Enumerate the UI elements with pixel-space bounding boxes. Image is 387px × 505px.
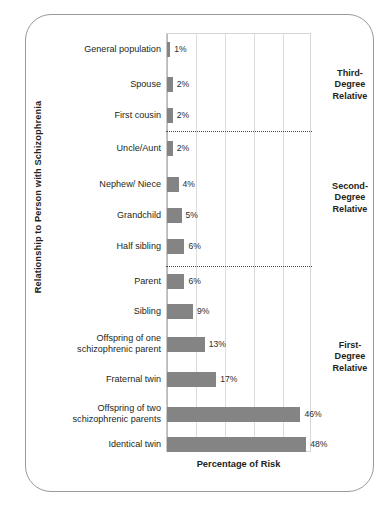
category-label: Offspring of oneschizophrenic parent <box>15 333 161 354</box>
separator-third-second <box>166 131 312 132</box>
bar-value-label: 2% <box>177 108 189 123</box>
bar-value-label: 13% <box>209 337 226 352</box>
category-label: Half sibling <box>15 241 161 252</box>
gridline-40 <box>283 34 284 451</box>
group-label-line-2: Degree <box>317 351 383 362</box>
gridline-30 <box>254 34 255 451</box>
category-label: Identical twin <box>15 439 161 450</box>
bar <box>167 108 173 123</box>
bar-value-label: 46% <box>304 407 321 422</box>
group-label-third-degree: Third- Degree Relative <box>317 68 383 102</box>
group-label-line-3: Relative <box>317 363 383 374</box>
category-label: Uncle/Aunt <box>15 143 161 154</box>
bar <box>167 337 205 352</box>
bar <box>167 42 170 57</box>
bar <box>167 437 306 452</box>
bar <box>167 208 182 223</box>
separator-second-first <box>166 266 312 267</box>
x-axis-title: Percentage of Risk <box>166 459 311 469</box>
schizophrenia-risk-bar-chart: Relationship to Person with Schizophreni… <box>0 0 387 505</box>
bar <box>167 304 193 319</box>
group-label-line-3: Relative <box>317 91 383 102</box>
bar-value-label: 6% <box>188 274 200 289</box>
category-label: First cousin <box>15 110 161 121</box>
category-label: Fraternal twin <box>15 374 161 385</box>
bar-value-label: 9% <box>197 304 209 319</box>
category-label: Nephew/ Niece <box>15 179 161 190</box>
bar-value-label: 2% <box>177 77 189 92</box>
bar-value-label: 17% <box>220 372 237 387</box>
bar-value-label: 2% <box>177 141 189 156</box>
bar <box>167 372 216 387</box>
group-label-line-1: First- <box>317 340 383 351</box>
category-label: Sibling <box>15 306 161 317</box>
group-label-line-2: Degree <box>317 192 383 203</box>
bar-value-label: 6% <box>188 239 200 254</box>
bar-value-label: 48% <box>310 437 327 452</box>
bar <box>167 274 184 289</box>
group-label-line-1: Third- <box>317 68 383 79</box>
gridline-20 <box>225 34 226 451</box>
group-label-first-degree: First- Degree Relative <box>317 340 383 374</box>
category-label: Offspring of twoschizophrenic parents <box>15 403 161 424</box>
group-label-second-degree: Second- Degree Relative <box>317 181 383 215</box>
bar <box>167 239 184 254</box>
category-label: Spouse <box>15 79 161 90</box>
bar-value-label: 1% <box>174 42 186 57</box>
category-label: Grandchild <box>15 210 161 221</box>
bar <box>167 407 300 422</box>
group-label-line-1: Second- <box>317 181 383 192</box>
bar <box>167 177 179 192</box>
bar <box>167 141 173 156</box>
category-label: Parent <box>15 276 161 287</box>
bar-value-label: 4% <box>183 177 195 192</box>
bar-value-label: 5% <box>186 208 198 223</box>
group-label-line-2: Degree <box>317 79 383 90</box>
bar <box>167 77 173 92</box>
category-label: General population <box>15 44 161 55</box>
group-label-line-3: Relative <box>317 204 383 215</box>
